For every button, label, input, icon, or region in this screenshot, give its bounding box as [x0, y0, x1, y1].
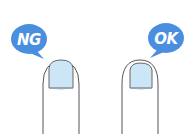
- ng-example: NG: [11, 24, 79, 134]
- ng-nail: [49, 60, 73, 88]
- ok-label: OK: [154, 30, 179, 48]
- ok-example: OK: [122, 23, 184, 134]
- ok-finger: [122, 60, 158, 134]
- nail-comparison-illustration: NG OK: [0, 0, 194, 138]
- ng-speech-bubble: NG: [11, 24, 47, 59]
- ok-nail: [130, 63, 152, 88]
- ng-finger: [43, 60, 79, 134]
- ok-speech-bubble: OK: [148, 23, 184, 58]
- ng-label: NG: [17, 31, 41, 49]
